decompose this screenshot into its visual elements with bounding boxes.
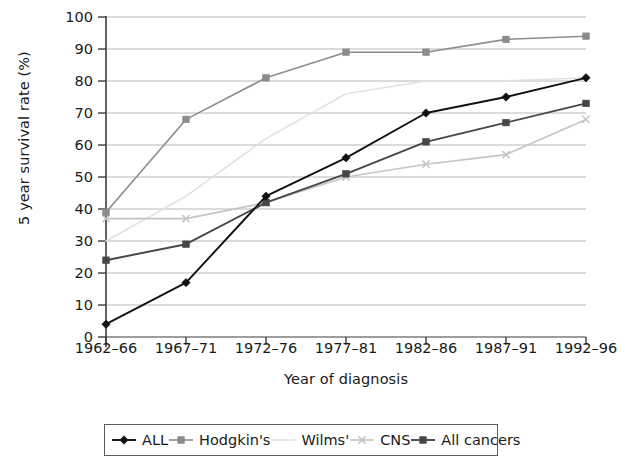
data-point-marker: [422, 109, 430, 117]
legend-swatch-icon: [270, 433, 296, 447]
data-point-marker: [583, 100, 590, 107]
data-point-marker: [178, 437, 185, 444]
y-axis-tick-label: 60: [57, 138, 93, 153]
series-all-cancers: [103, 100, 590, 263]
y-axis-tick-label: 90: [57, 42, 93, 57]
y-axis-tick-label: 80: [57, 74, 93, 89]
legend-label: ALL: [142, 432, 168, 448]
data-point-marker: [343, 49, 350, 56]
data-point-marker: [420, 437, 427, 444]
legend-swatch-icon: [349, 433, 375, 447]
legend-label: All cancers: [441, 432, 520, 448]
legend-item-all-cancers[interactable]: All cancers: [410, 432, 520, 448]
legend-swatch-icon: [410, 433, 436, 447]
series-all: [102, 74, 590, 329]
legend-item-cns[interactable]: CNS: [349, 432, 410, 448]
series-line: [106, 36, 586, 212]
series-line: [106, 119, 586, 218]
data-point-marker: [423, 139, 430, 146]
y-axis-tick-label: 40: [57, 202, 93, 217]
legend-swatch-icon: [111, 433, 137, 447]
chart-legend: ALLHodgkin'sWilms'CNSAll cancers: [104, 424, 498, 456]
y-axis-tick-label: 100: [57, 10, 93, 25]
legend-item-all[interactable]: ALL: [111, 432, 168, 448]
x-axis-tick-label: 1977–81: [301, 341, 391, 356]
data-point-marker: [343, 171, 350, 178]
data-point-marker: [583, 33, 590, 40]
x-axis-tick-label: 1982–86: [381, 341, 471, 356]
x-axis-tick-label: 1962–66: [61, 341, 151, 356]
legend-label: Hodgkin's: [199, 432, 270, 448]
data-point-marker: [103, 209, 110, 216]
series-hodgkin-s: [103, 33, 590, 216]
x-axis-tick-label: 1972–76: [221, 341, 311, 356]
y-axis-tick-label: 70: [57, 106, 93, 121]
data-point-marker: [263, 75, 270, 82]
y-axis-tick-label: 20: [57, 266, 93, 281]
data-point-marker: [183, 241, 190, 248]
data-point-marker: [103, 257, 110, 264]
legend-item-wilms[interactable]: Wilms': [270, 432, 349, 448]
y-axis-tick-label: 50: [57, 170, 93, 185]
legend-item-hodgkin-s[interactable]: Hodgkin's: [168, 432, 270, 448]
data-point-marker: [102, 320, 110, 328]
x-axis-tick-label: 1992–96: [541, 341, 621, 356]
legend-label: Wilms': [301, 432, 349, 448]
x-axis-title: Year of diagnosis: [106, 371, 586, 387]
data-point-marker: [582, 116, 589, 123]
data-point-marker: [342, 154, 350, 162]
x-axis-tick-label: 1987–91: [461, 341, 551, 356]
series-line: [106, 103, 586, 260]
data-point-marker: [503, 119, 510, 126]
legend-label: CNS: [380, 432, 410, 448]
y-axis-tick-label: 30: [57, 234, 93, 249]
y-axis-tick-label: 10: [57, 298, 93, 313]
data-point-marker: [502, 93, 510, 101]
x-axis-tick-label: 1967–71: [141, 341, 231, 356]
legend-swatch-icon: [168, 433, 194, 447]
axis-lines: [98, 16, 586, 347]
data-point-marker: [183, 116, 190, 123]
data-point-marker: [503, 36, 510, 43]
data-point-marker: [423, 49, 430, 56]
data-point-marker: [120, 436, 128, 444]
